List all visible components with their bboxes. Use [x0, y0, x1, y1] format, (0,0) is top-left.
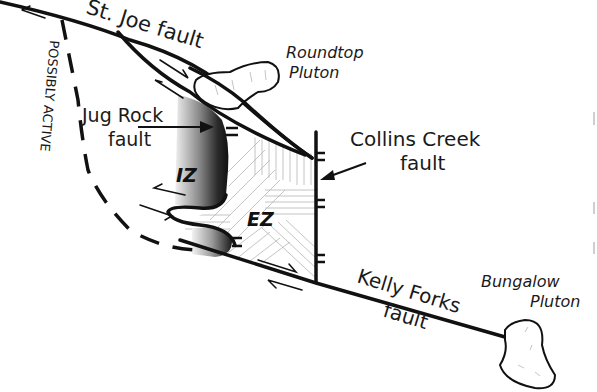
collins-creek-arrowhead-icon [320, 170, 335, 180]
roundtop-pluton-label-line2: Pluton [289, 63, 339, 82]
jug-rock-slip-arrow-lower [155, 80, 183, 98]
bungalow-pluton-label-line1: Bungalow [481, 272, 560, 291]
collins-creek-fault-label-line1: Collins Creek [350, 127, 481, 151]
ez-zone-label: EZ [247, 208, 275, 230]
roundtop-pluton-label-line1: Roundtop [286, 43, 364, 62]
fault-map-diagram: St. Joe fault Roundtop Pluton POSSIBLY A… [0, 0, 597, 392]
jug-rock-fault-label-line1: Jug Rock [81, 104, 163, 126]
collins-creek-fault-label-line2: fault [400, 151, 446, 175]
kelly-forks-fault-line [180, 240, 505, 337]
bungalow-pluton-outline [500, 320, 555, 388]
iz-zone-label: IZ [176, 164, 198, 186]
bungalow-pluton-label-line2: Pluton [530, 292, 580, 311]
possibly-active-label: POSSIBLY ACTIVE [37, 40, 62, 152]
jug-rock-fault-label-line2: fault [108, 128, 151, 150]
kelly-forks-slip-arrow-lower [268, 280, 302, 290]
roundtop-pluton-outline [194, 62, 279, 109]
jug-rock-ticks [226, 128, 242, 246]
